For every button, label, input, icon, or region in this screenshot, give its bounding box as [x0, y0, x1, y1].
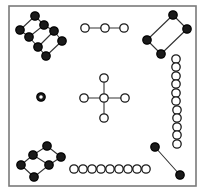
graph-node-ring-inner	[39, 95, 43, 99]
graph-node-filled	[50, 27, 58, 35]
graph-node-filled	[34, 43, 42, 51]
graph-node-filled	[157, 50, 165, 58]
graph-node-open	[106, 165, 114, 173]
graph-node-open	[81, 24, 89, 32]
graph-node-open	[121, 94, 129, 102]
graph-node-open	[115, 165, 123, 173]
graph-component-top-middle-chain	[81, 24, 128, 32]
graph-canvas	[0, 0, 208, 196]
graph-node-open	[124, 165, 132, 173]
graph-node-filled	[40, 21, 48, 29]
graph-node-open	[88, 165, 96, 173]
graph-node-open	[173, 114, 181, 122]
graph-node-open	[172, 63, 180, 71]
graph-node-filled	[43, 142, 51, 150]
graph-node-open	[100, 114, 108, 122]
graph-component-right-column-chain	[172, 55, 181, 148]
graph-node-open	[172, 97, 180, 105]
graph-node-open	[172, 72, 180, 80]
graph-node-open	[80, 94, 88, 102]
graph-node-filled	[25, 33, 33, 41]
graph-node-open	[100, 94, 108, 102]
graph-figure	[0, 0, 208, 196]
graph-node-open	[172, 80, 180, 88]
graph-node-filled	[17, 161, 25, 169]
graph-node-filled	[57, 153, 65, 161]
graph-node-filled	[169, 11, 177, 19]
graph-node-open	[100, 74, 108, 82]
graph-node-open	[97, 165, 105, 173]
graph-node-open	[70, 165, 78, 173]
graph-node-filled	[29, 151, 37, 159]
graph-node-open	[133, 165, 141, 173]
graph-component-bottom-middle-chain	[70, 165, 150, 173]
graph-node-filled	[42, 52, 50, 60]
graph-node-filled	[151, 143, 159, 151]
graph-node-filled	[45, 161, 53, 169]
graph-node-open	[172, 89, 180, 97]
graph-node-open	[173, 106, 181, 114]
graph-node-open	[142, 165, 150, 173]
graph-node-open	[101, 24, 109, 32]
graph-node-open	[79, 165, 87, 173]
graph-node-open	[173, 140, 181, 148]
graph-node-open	[173, 131, 181, 139]
graph-node-filled	[31, 12, 39, 20]
graph-node-filled	[176, 171, 184, 179]
graph-node-open	[120, 24, 128, 32]
graph-node-filled	[143, 36, 151, 44]
graph-node-filled	[58, 37, 66, 45]
graph-component-isolated-ring-node	[37, 93, 45, 101]
graph-node-open	[172, 55, 180, 63]
graph-node-filled	[16, 26, 24, 34]
graph-node-filled	[183, 25, 191, 33]
graph-node-filled	[30, 173, 38, 181]
graph-node-open	[173, 123, 181, 131]
